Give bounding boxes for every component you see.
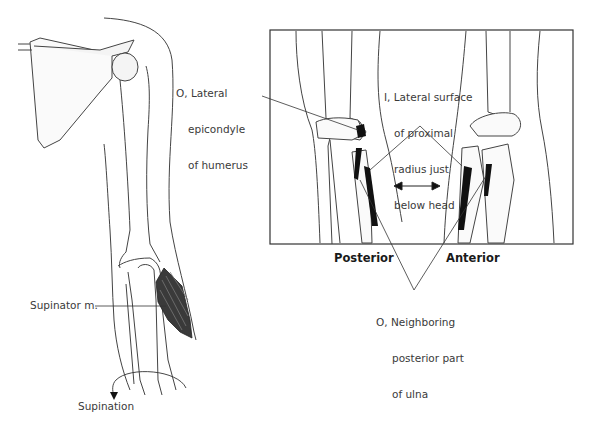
supinator-muscle (156, 268, 192, 338)
insertion-label-line-3: radius just (384, 163, 472, 175)
insertion-label-line-2: of proximal (384, 127, 472, 139)
insertion-label-line-4: below head (384, 199, 472, 211)
anterior-view-label: Anterior (446, 252, 500, 264)
supination-label: Supination (78, 400, 134, 412)
posterior-view-label: Posterior (334, 252, 394, 264)
origin-epicondyle-label: O, Lateral epicondyle of humerus (176, 63, 248, 183)
insertion-label-line-1: I, Lateral surface (384, 91, 472, 103)
origin-label-line-3: of humerus (176, 159, 248, 171)
ulna-label-line-2: posterior part (376, 352, 464, 364)
supination-arrow (113, 372, 186, 396)
ulna-origin-label: O, Neighboring posterior part of ulna (376, 292, 464, 412)
arm-figure (18, 18, 196, 395)
insertion-label: I, Lateral surface of proximal radius ju… (384, 67, 472, 223)
supinator-muscle-label: Supinator m. (30, 299, 98, 311)
anatomy-illustration (0, 0, 595, 429)
ulna-label-line-1: O, Neighboring (376, 316, 464, 328)
supination-arrowhead (110, 392, 118, 400)
origin-label-line-1: O, Lateral (176, 87, 248, 99)
ulna-label-line-3: of ulna (376, 388, 464, 400)
origin-label-line-2: epicondyle (176, 123, 248, 135)
